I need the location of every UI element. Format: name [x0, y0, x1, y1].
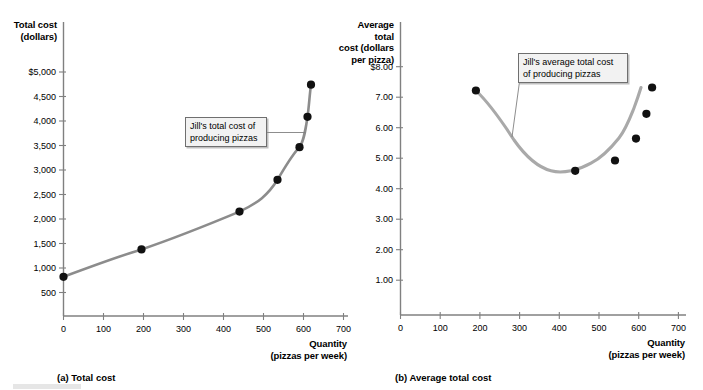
x-tick-label: 100 — [84, 324, 124, 334]
data-point — [632, 135, 640, 143]
x-tick-label: 300 — [500, 323, 540, 333]
y-tick-label: 4,500 — [2, 92, 56, 102]
y-tick-label: 2,000 — [2, 214, 56, 224]
data-point — [642, 110, 650, 118]
x-tick-label: 500 — [244, 324, 284, 334]
data-point — [648, 83, 656, 91]
panel-caption-b: (b) Average total cost — [395, 372, 491, 383]
y-tick-label: 1,000 — [2, 263, 56, 273]
y-axis-title: Average total cost (dollars per pizza) — [337, 19, 394, 65]
y-tick-label: 500 — [2, 288, 56, 298]
y-tick-label: $8.00 — [345, 62, 393, 72]
y-tick-label: 4,000 — [2, 116, 56, 126]
data-point — [295, 143, 303, 151]
data-point-markers — [472, 83, 656, 174]
data-point — [307, 81, 315, 89]
data-point — [59, 273, 67, 281]
x-axis-title: Quantity (pizzas per week) — [205, 338, 347, 361]
x-tick-label: 0 — [44, 324, 84, 334]
y-tick-label: 3.00 — [345, 214, 393, 224]
y-tick-label: 7.00 — [345, 92, 393, 102]
y-tick-label: 1.00 — [345, 275, 393, 285]
y-tick-label: 5.00 — [345, 153, 393, 163]
data-point — [235, 208, 243, 216]
x-tick-label: 600 — [284, 324, 324, 334]
x-tick-label: 200 — [124, 324, 164, 334]
x-axis-title: Quantity (pizzas per week) — [543, 337, 685, 360]
x-tick-label: 400 — [204, 324, 244, 334]
callout-leader-line — [512, 78, 520, 137]
data-point — [137, 245, 145, 253]
data-point — [273, 176, 281, 184]
y-tick-marks — [396, 67, 403, 281]
x-tick-label: 0 — [381, 323, 421, 333]
y-tick-label: 1,500 — [2, 239, 56, 249]
x-tick-label: 500 — [579, 323, 619, 333]
x-tick-label: 200 — [460, 323, 500, 333]
y-tick-label: 6.00 — [345, 123, 393, 133]
panel-average-total-cost: Average total cost (dollars per pizza) $… — [351, 0, 703, 390]
y-tick-label: 2.00 — [345, 245, 393, 255]
x-tick-label: 700 — [658, 323, 698, 333]
y-tick-label: $5,000 — [2, 67, 56, 77]
data-point — [571, 167, 579, 175]
data-point — [611, 156, 619, 164]
x-tick-label: 600 — [619, 323, 659, 333]
y-tick-marks — [59, 72, 66, 293]
callout-average-total-cost: Jill's average total cost of producing p… — [518, 53, 628, 83]
panel-caption-a: (a) Total cost — [57, 372, 115, 383]
scan-artifact-bar — [13, 384, 81, 389]
x-tick-label: 100 — [420, 323, 460, 333]
callout-total-cost: Jill's total cost of producing pizzas — [185, 117, 267, 147]
data-point — [303, 113, 311, 121]
data-point — [472, 86, 480, 94]
data-point-markers — [59, 81, 315, 281]
panel-total-cost: Total cost (dollars) $5,000 4,500 4,000 … — [0, 0, 352, 390]
y-tick-label: 3,500 — [2, 141, 56, 151]
x-tick-label: 400 — [539, 323, 579, 333]
x-tick-label: 300 — [164, 324, 204, 334]
y-tick-label: 4.00 — [345, 184, 393, 194]
y-axis-title: Total cost (dollars) — [2, 19, 57, 42]
y-tick-label: 2,500 — [2, 190, 56, 200]
y-tick-label: 3,000 — [2, 165, 56, 175]
